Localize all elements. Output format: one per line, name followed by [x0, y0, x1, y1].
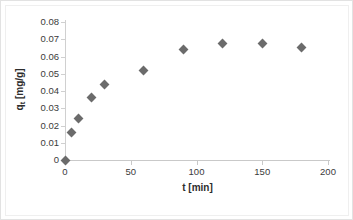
x-axis-tick-label: 50 [111, 166, 151, 177]
y-axis-title-base: q [14, 104, 25, 110]
x-axis-tick-label: 0 [45, 166, 85, 177]
y-axis-tick-label: 0.05 [25, 69, 59, 79]
y-axis-tick-label: 0.07 [25, 34, 59, 44]
y-axis-tick-label: 0.03 [25, 103, 59, 113]
y-axis-tick-labels: 00.010.020.030.040.050.060.070.08 [23, 1, 59, 181]
x-axis-title: t [min] [65, 182, 330, 193]
x-axis-tick [262, 161, 263, 165]
y-axis-tick-label: 0.08 [25, 17, 59, 27]
y-axis-tick-label: 0.06 [25, 52, 59, 62]
y-axis-tick-label: 0 [25, 155, 59, 165]
chart-figure: 00.010.020.030.040.050.060.070.08 050100… [0, 0, 353, 220]
plot-area [65, 22, 328, 160]
x-axis-line [65, 160, 330, 161]
data-point-marker [67, 127, 77, 137]
x-axis-tick [197, 161, 198, 165]
x-axis-tick [328, 161, 329, 165]
x-axis-tick-label: 200 [308, 166, 348, 177]
data-point-marker [99, 79, 109, 89]
data-point-marker [297, 42, 307, 52]
data-point-marker [257, 39, 267, 49]
data-point-marker [86, 93, 96, 103]
y-axis-title-subscript: t [18, 102, 27, 105]
data-point-marker [139, 65, 149, 75]
data-point-marker [73, 114, 83, 124]
x-axis-tick-label: 150 [242, 166, 282, 177]
x-axis-tick-label: 100 [177, 166, 217, 177]
y-axis-tick-label: 0.02 [25, 121, 59, 131]
x-axis-tick [131, 161, 132, 165]
y-axis-title: qt [mg/g] [14, 42, 25, 138]
data-point-marker [218, 39, 228, 49]
y-axis-tick-label: 0.01 [25, 138, 59, 148]
y-axis-title-unit: [mg/g] [14, 69, 25, 102]
y-axis-tick-label: 0.04 [25, 86, 59, 96]
data-point-marker [178, 45, 188, 55]
